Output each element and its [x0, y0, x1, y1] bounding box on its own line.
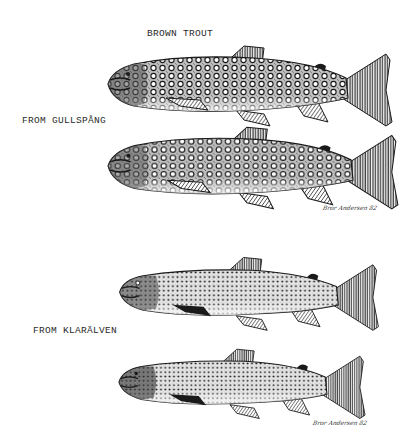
fish-illustration-klaralven-1 — [104, 252, 394, 334]
artist-signature-1: Bror Andersen 82 — [322, 204, 378, 211]
label-from-gullspang: FROM GULLSPÅNG — [22, 115, 106, 126]
fish-illustration-gullspang-2 — [104, 121, 402, 215]
fish-illustration-gullspang-1 — [104, 40, 396, 132]
title-brown-trout: BROWN TROUT — [147, 28, 213, 39]
artist-signature-2: Bror Andersen 82 — [312, 419, 368, 426]
fish-illustration-klaralven-2 — [104, 344, 380, 422]
